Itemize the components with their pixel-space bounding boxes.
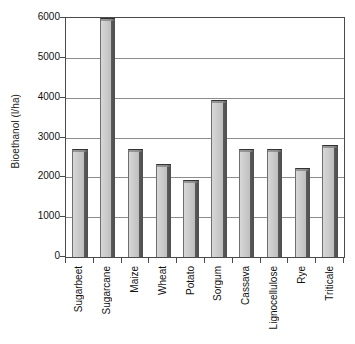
bar[interactable] xyxy=(183,180,199,257)
x-tick-mark xyxy=(148,257,149,263)
x-axis-category-labels: SugarbeetSugarcaneMaizeWheatPotatoSorgum… xyxy=(65,266,345,344)
x-axis-label: Wheat xyxy=(148,266,176,342)
y-tick-label: 5000 xyxy=(24,52,60,62)
bar-slot xyxy=(94,18,122,257)
x-tick-mark xyxy=(260,257,261,263)
x-axis-label: Sugarbeet xyxy=(65,266,93,342)
y-tick-label: 3000 xyxy=(24,132,60,142)
plot-area xyxy=(65,17,345,258)
bar[interactable] xyxy=(211,100,227,257)
bar-slot xyxy=(261,18,289,257)
x-axis-label: Rye xyxy=(287,266,315,342)
bar-top-face xyxy=(101,18,116,21)
x-tick-mark xyxy=(93,257,94,263)
x-axis-label-text: Rye xyxy=(296,266,307,284)
x-axis-label: Cassava xyxy=(232,266,260,342)
bar-top-face xyxy=(157,164,172,167)
bar-slot xyxy=(177,18,205,257)
bar-slot xyxy=(288,18,316,257)
y-tick-label: 2000 xyxy=(24,171,60,181)
bar-chart: Bioethanol (l/ha) 0100020003000400050006… xyxy=(0,0,355,344)
bar-slot xyxy=(205,18,233,257)
bar-top-face xyxy=(184,180,199,183)
bar[interactable] xyxy=(267,149,283,257)
bar-top-face xyxy=(129,149,144,152)
bar-top-face xyxy=(296,168,311,171)
x-axis-label: Sorgum xyxy=(204,266,232,342)
y-tick-label: 0 xyxy=(24,251,60,261)
y-tick-label: 6000 xyxy=(24,12,60,22)
bar-top-face xyxy=(73,149,88,152)
x-tick-mark xyxy=(343,257,344,263)
bar[interactable] xyxy=(128,149,144,257)
x-axis-label: Triticale xyxy=(315,266,343,342)
x-tick-mark xyxy=(232,257,233,263)
x-axis-label: Lignocellulose xyxy=(260,266,288,342)
bars-layer xyxy=(66,18,344,257)
bar-top-face xyxy=(240,149,255,152)
x-tick-mark xyxy=(204,257,205,263)
bar-slot xyxy=(149,18,177,257)
x-axis-label-text: Maize xyxy=(129,266,140,293)
bar[interactable] xyxy=(100,18,116,257)
y-tick-label: 1000 xyxy=(24,211,60,221)
y-axis-tick-labels: 0100020003000400050006000 xyxy=(24,0,60,262)
x-axis-label-text: Sugarbeet xyxy=(73,266,84,312)
bar-top-face xyxy=(323,145,338,148)
x-axis-label-text: Sugarcane xyxy=(101,266,112,314)
y-tick-mark xyxy=(60,57,65,58)
bar[interactable] xyxy=(239,149,255,257)
x-axis-label: Potato xyxy=(176,266,204,342)
x-axis-label-text: Triticale xyxy=(324,266,335,301)
y-tick-mark xyxy=(60,216,65,217)
bar-slot xyxy=(233,18,261,257)
x-axis-label: Maize xyxy=(121,266,149,342)
x-axis-label-text: Wheat xyxy=(157,266,168,295)
x-tick-mark xyxy=(121,257,122,263)
bar-top-face xyxy=(212,100,227,103)
x-tick-mark xyxy=(315,257,316,263)
x-axis-label-text: Sorgum xyxy=(212,266,223,301)
x-tick-mark xyxy=(287,257,288,263)
y-axis-title: Bioethanol (l/ha) xyxy=(7,0,23,262)
bar[interactable] xyxy=(156,164,172,257)
bar-slot xyxy=(66,18,94,257)
y-tick-mark xyxy=(60,97,65,98)
y-tick-mark xyxy=(60,176,65,177)
y-tick-label: 4000 xyxy=(24,92,60,102)
x-axis-tick-marks xyxy=(65,257,345,263)
x-tick-mark xyxy=(65,257,66,263)
x-axis-label: Sugarcane xyxy=(93,266,121,342)
x-axis-label-text: Lignocellulose xyxy=(268,266,279,329)
bar[interactable] xyxy=(295,168,311,257)
y-axis-title-text: Bioethanol (l/ha) xyxy=(10,94,21,169)
x-tick-mark xyxy=(176,257,177,263)
x-axis-label-text: Cassava xyxy=(240,266,251,305)
bar-slot xyxy=(316,18,344,257)
y-tick-mark xyxy=(60,256,65,257)
y-tick-mark xyxy=(60,17,65,18)
bar[interactable] xyxy=(322,145,338,257)
x-axis-label-text: Potato xyxy=(185,266,196,295)
bar[interactable] xyxy=(72,149,88,257)
bar-top-face xyxy=(268,149,283,152)
bar-slot xyxy=(122,18,150,257)
y-tick-mark xyxy=(60,137,65,138)
